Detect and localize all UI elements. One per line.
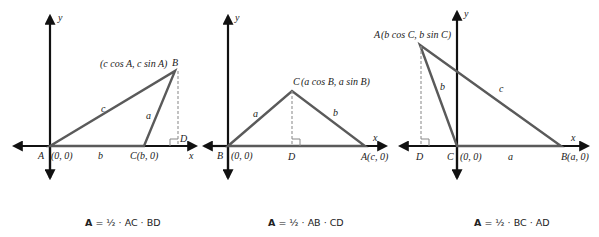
formula-left: A = ½ · AC · BD = ½ · b · c sin A A = ½b… <box>85 193 170 237</box>
foot-d-label: D <box>415 151 424 162</box>
origin-coords: (0, 0) <box>231 150 253 162</box>
formula-line-1: = ½ · AC · BD <box>92 217 160 228</box>
vertex-a-label: A <box>37 150 45 161</box>
triangle-abc <box>420 45 561 146</box>
triangle-abc <box>228 91 365 146</box>
side-b-label: b <box>440 81 445 92</box>
side-b-label: b <box>333 107 338 118</box>
vertex-a-label: A(c, 0) <box>360 151 389 163</box>
foot-d-label: D <box>179 133 188 144</box>
formula-right: A = ½ · BC · AD = ½ · a · b sin C A = ½a… <box>474 193 560 237</box>
origin-coords: (0, 0) <box>460 151 482 163</box>
side-b-label: b <box>98 150 103 161</box>
x-axis-label: x <box>372 132 378 143</box>
vertex-c-coords: (a cos B, a sin B) <box>301 76 371 88</box>
x-axis-label: x <box>188 150 194 161</box>
formula-middle: A = ½ · AB · CD = ½ · c · a sin B A = ½a… <box>268 193 353 237</box>
vertex-a-coords: (b cos C, b sin C) <box>381 29 452 41</box>
side-a-label: a <box>508 151 513 162</box>
panel-right: y x A (b cos C, b sin C) b c D C (0, 0) … <box>373 8 589 178</box>
vertex-c-label: C <box>447 151 454 162</box>
y-axis-label: y <box>57 12 63 23</box>
y-axis-label: y <box>463 8 469 19</box>
side-a-label: a <box>253 108 258 119</box>
vertex-b-label: B <box>217 150 223 161</box>
side-c-label: c <box>499 83 504 94</box>
foot-d-label: D <box>287 151 296 162</box>
vertex-a-label: A <box>373 29 381 40</box>
vertex-c-label: C <box>293 76 300 87</box>
panel-middle: y x C (a cos B, a sin B) a b B (0, 0) D … <box>204 12 389 178</box>
panel-left: y x (c cos A, c sin A) B c a D A (0, 0) … <box>14 12 196 178</box>
triangle-abc <box>50 71 175 146</box>
vertex-b-label: B <box>172 57 178 68</box>
side-c-label: c <box>101 103 106 114</box>
vertex-b-label: B(a, 0) <box>561 151 589 163</box>
side-a-label: a <box>146 110 151 121</box>
origin-coords: (0, 0) <box>51 150 73 162</box>
vertex-c-label: C(b, 0) <box>130 150 159 162</box>
y-axis-label: y <box>234 12 240 23</box>
x-axis-label: x <box>570 132 576 143</box>
vertex-b-coords: (c cos A, c sin A) <box>100 58 168 70</box>
formula-line-1: = ½ · BC · AD <box>481 217 549 228</box>
formula-line-1: = ½ · AB · CD <box>275 217 343 228</box>
